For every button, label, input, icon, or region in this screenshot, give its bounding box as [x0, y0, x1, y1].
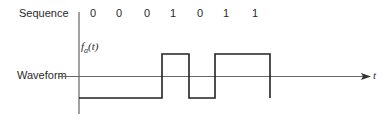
- waveform-diagram: [0, 0, 389, 120]
